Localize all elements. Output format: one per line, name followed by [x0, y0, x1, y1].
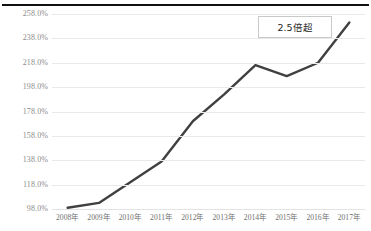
y-axis-tick-label: 238.0% [4, 33, 48, 42]
line-chart: 2008年2009年2010年2011年2012年2013年2014年2015年… [0, 0, 371, 231]
annotation-callout-label: 2.5倍超 [277, 20, 312, 34]
gridline [52, 112, 365, 113]
x-axis-tick-label: 2015年 [275, 211, 298, 222]
x-axis: 2008年2009年2010年2011年2012年2013年2014年2015年… [46, 211, 371, 227]
y-axis-tick-label: 138.0% [4, 155, 48, 164]
x-axis-tick-label: 2013年 [213, 211, 236, 222]
gridline [52, 209, 365, 210]
gridline [52, 136, 365, 137]
x-axis-tick-label: 2008年 [56, 211, 79, 222]
y-axis-tick-label: 258.0% [4, 9, 48, 18]
y-axis-tick-label: 198.0% [4, 82, 48, 91]
top-divider-rule [2, 4, 369, 6]
x-axis-tick-label: 2017年 [338, 211, 361, 222]
gridline [52, 185, 365, 186]
gridline [52, 38, 365, 39]
x-axis-tick-label: 2009年 [87, 211, 110, 222]
x-axis-tick-label: 2010年 [119, 211, 142, 222]
annotation-callout-box: 2.5倍超 [258, 16, 332, 38]
y-axis-tick-label: 118.0% [4, 180, 48, 189]
y-axis-tick-label: 178.0% [4, 107, 48, 116]
x-axis-tick-label: 2016年 [306, 211, 329, 222]
x-axis-tick-label: 2011年 [150, 211, 173, 222]
y-axis-tick-label: 218.0% [4, 58, 48, 67]
gridline [52, 63, 365, 64]
y-axis-tick-label: 98.0% [4, 204, 48, 213]
x-axis-tick-label: 2012年 [181, 211, 204, 222]
plot-area [52, 14, 365, 209]
gridline [52, 14, 365, 15]
gridline [52, 87, 365, 88]
y-axis-tick-label: 158.0% [4, 131, 48, 140]
gridline [52, 160, 365, 161]
x-axis-tick-label: 2014年 [244, 211, 267, 222]
